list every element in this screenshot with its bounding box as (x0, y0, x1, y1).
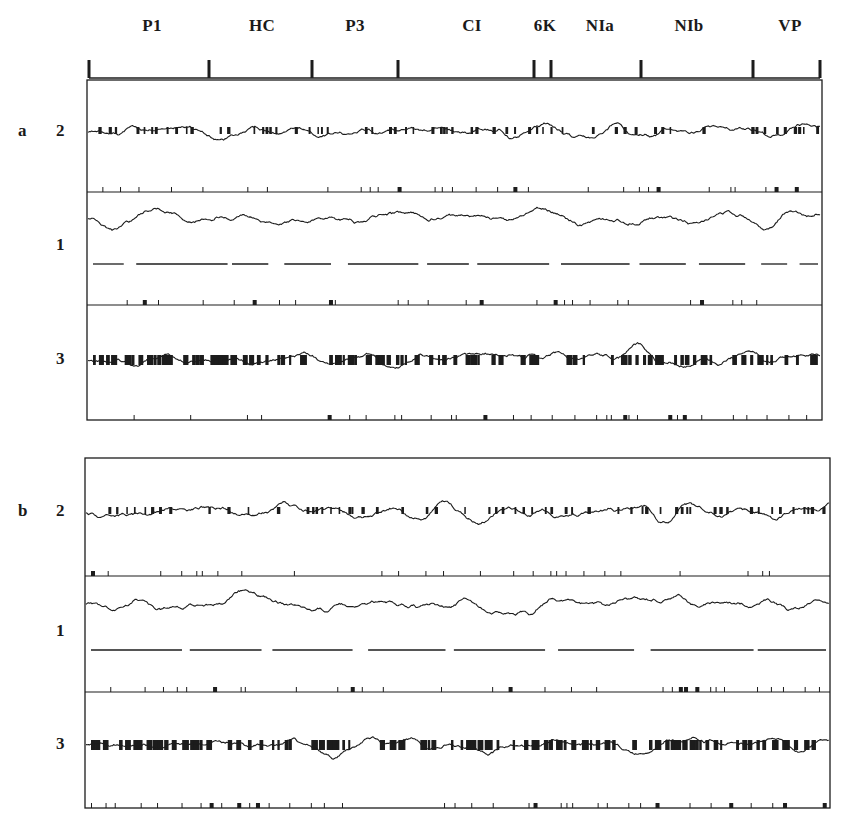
panel-a (87, 80, 822, 420)
profile-trace (88, 123, 820, 140)
boundary-tick (550, 60, 553, 78)
figure-plot (0, 0, 849, 829)
boundary-tick (88, 60, 91, 78)
boundary-tick (640, 60, 643, 78)
genome-map (88, 60, 822, 78)
profile-trace (86, 590, 829, 615)
profile-trace (86, 501, 829, 525)
panel-b (85, 458, 830, 808)
profile-trace (88, 207, 820, 230)
boundary-tick (819, 60, 822, 78)
boundary-tick (533, 60, 536, 78)
boundary-tick (397, 60, 400, 78)
boundary-tick (752, 60, 755, 78)
boundary-tick (208, 60, 211, 78)
boundary-tick (311, 60, 314, 78)
